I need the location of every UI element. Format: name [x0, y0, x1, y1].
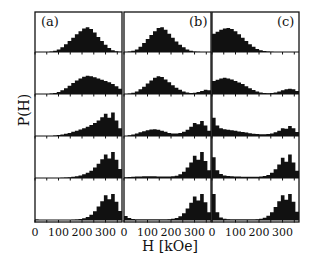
- histogram-bars: [212, 118, 299, 136]
- histogram-bars: [35, 27, 122, 52]
- x-tick-label: 0: [121, 226, 128, 239]
- panel-label: (a): [41, 14, 59, 29]
- x-tick-label: 100: [48, 226, 69, 239]
- histogram-bars: [212, 155, 299, 178]
- histogram-bars: [124, 76, 211, 94]
- x-axis-label: H [kOe]: [130, 238, 210, 254]
- x-tick-label: 200: [72, 226, 93, 239]
- panel-label: (c): [277, 14, 294, 29]
- histogram-bars: [35, 76, 122, 94]
- histogram-bars: [35, 152, 122, 178]
- y-axis-label: P(H): [14, 90, 34, 130]
- histogram-bars: [124, 27, 211, 52]
- histogram-bars: [124, 121, 211, 136]
- x-tick-label: 100: [225, 226, 246, 239]
- histogram-bars: [35, 194, 122, 220]
- histogram-bars: [124, 152, 211, 178]
- histogram-grid-figure: (a)0100200300(b)0100200300(c)0100200300: [0, 0, 316, 261]
- histogram-bars: [212, 28, 299, 52]
- histogram-bars: [35, 113, 122, 136]
- histogram-bars: [212, 194, 299, 220]
- histogram-bars: [124, 194, 211, 220]
- x-tick-label: 300: [95, 226, 116, 239]
- panel-label: (b): [189, 14, 207, 29]
- histogram-bars: [212, 78, 299, 94]
- x-tick-label: 300: [272, 226, 293, 239]
- x-tick-label: 200: [249, 226, 270, 239]
- x-tick-label: 0: [32, 226, 39, 239]
